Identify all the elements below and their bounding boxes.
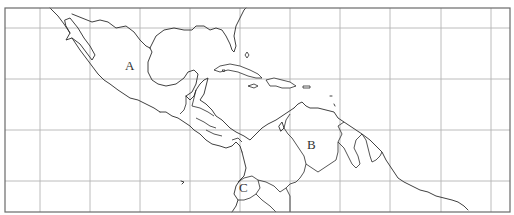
bahamas-island bbox=[245, 52, 249, 58]
mexico-outline bbox=[50, 8, 198, 112]
border-guatemala-belize bbox=[180, 90, 196, 114]
us-gulf-coast bbox=[150, 8, 246, 52]
border-suriname bbox=[362, 134, 382, 162]
graticule bbox=[5, 8, 510, 212]
south-america-north-coast bbox=[294, 102, 468, 210]
galapagos-islet bbox=[181, 181, 184, 184]
puerto-rico bbox=[303, 86, 310, 88]
label-c: C bbox=[239, 180, 248, 195]
border-panama bbox=[232, 138, 242, 142]
cuba bbox=[214, 64, 262, 78]
baja-california-outline bbox=[65, 18, 95, 60]
border-colombia-venezuela bbox=[284, 114, 306, 212]
border-peru-colombia bbox=[256, 180, 286, 212]
caribbean-islands bbox=[181, 52, 335, 184]
hispaniola bbox=[266, 78, 296, 88]
label-a: A bbox=[125, 58, 135, 73]
central-america-outline bbox=[160, 78, 294, 152]
border-guyana bbox=[338, 134, 362, 168]
jamaica bbox=[248, 84, 258, 88]
lesser-antilles-islet bbox=[330, 96, 335, 106]
map-figure: A B C bbox=[0, 0, 514, 215]
map-svg: A B C bbox=[0, 0, 514, 215]
label-b: B bbox=[307, 137, 316, 152]
